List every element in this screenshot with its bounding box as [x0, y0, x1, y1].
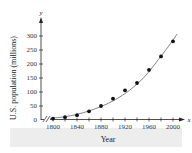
- svg-text:0: 0: [34, 116, 38, 124]
- data-point: [147, 68, 151, 72]
- x-axis-arrow-icon: [179, 118, 185, 122]
- svg-text:300: 300: [27, 32, 38, 40]
- svg-text:1840: 1840: [70, 123, 85, 131]
- data-point: [99, 104, 103, 108]
- population-chart: y x 0 50 100 150 200 250 300: [0, 0, 192, 153]
- data-point: [171, 39, 175, 43]
- data-point: [87, 109, 91, 113]
- svg-text:1880: 1880: [94, 123, 109, 131]
- data-point: [135, 81, 139, 85]
- y-tick-labels: 0 50 100 150 200 250 300: [27, 32, 38, 124]
- svg-text:200: 200: [27, 60, 38, 68]
- svg-text:1960: 1960: [142, 123, 157, 131]
- svg-text:2000: 2000: [166, 123, 181, 131]
- data-point: [111, 97, 115, 101]
- data-point: [123, 88, 127, 92]
- svg-text:250: 250: [27, 46, 38, 54]
- svg-text:1800: 1800: [46, 123, 61, 131]
- data-point: [159, 55, 163, 59]
- svg-text:50: 50: [30, 102, 38, 110]
- x-axis-var: x: [186, 116, 191, 124]
- y-axis-var: y: [38, 9, 43, 17]
- fitted-curve: [50, 34, 177, 118]
- svg-text:100: 100: [27, 88, 38, 96]
- x-axis-title: Year: [101, 135, 116, 144]
- data-points: [51, 39, 175, 120]
- svg-text:1920: 1920: [118, 123, 133, 131]
- y-axis-arrow-icon: [39, 17, 43, 23]
- data-point: [75, 113, 79, 117]
- svg-text:150: 150: [27, 74, 38, 82]
- y-axis-title: U.S. population (millions): [9, 36, 18, 120]
- data-point: [63, 115, 67, 119]
- x-tick-labels: 1800 1840 1880 1920 1960 2000: [46, 123, 181, 131]
- data-point: [51, 117, 55, 121]
